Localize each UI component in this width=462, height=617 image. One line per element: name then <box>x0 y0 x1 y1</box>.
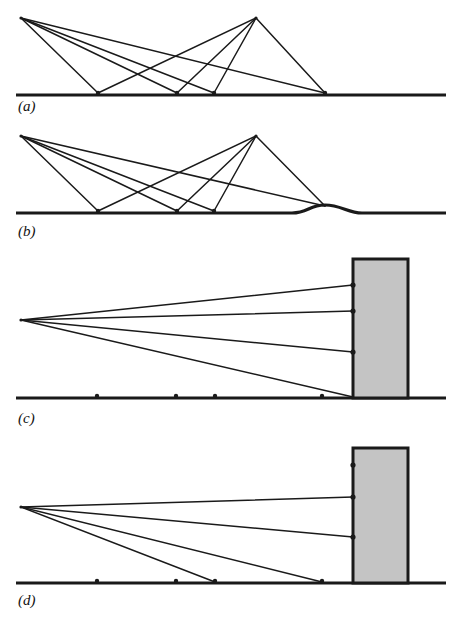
panel-a: (a) <box>16 16 446 115</box>
panel-label-b: (b) <box>18 223 36 240</box>
ground-node-d-3 <box>213 579 217 583</box>
ray-a-5 <box>98 18 256 93</box>
ray-a-8 <box>256 18 325 93</box>
ray-a-7 <box>214 18 256 93</box>
panel-label-c: (c) <box>18 410 35 427</box>
ground-node-b-2 <box>175 209 179 213</box>
ray-b-5 <box>98 136 256 211</box>
left-apex-b <box>19 134 22 137</box>
block-contact-dot-d-3 <box>350 534 355 539</box>
ground-node-c-1 <box>95 394 99 398</box>
panel-b: (b) <box>16 134 446 240</box>
ground-node-d-2 <box>174 579 178 583</box>
ground-node-a-2 <box>175 91 179 95</box>
ray-d-3 <box>21 507 215 582</box>
panel-d: (d) <box>16 448 446 609</box>
source-apex-d <box>19 505 22 508</box>
ground-node-b-1 <box>96 209 100 213</box>
ground-node-c-2 <box>174 394 178 398</box>
ray-d-4 <box>21 507 322 582</box>
block-contact-dot-c-3 <box>350 349 355 354</box>
ground-node-c-4 <box>320 394 324 398</box>
ray-c-3 <box>21 320 353 352</box>
ground-node-c-3 <box>213 394 217 398</box>
ground-node-d-1 <box>95 579 99 583</box>
right-apex-a <box>254 16 257 19</box>
ray-a-1 <box>21 18 98 93</box>
ground-node-a-1 <box>96 91 100 95</box>
panel-label-a: (a) <box>18 98 36 115</box>
block-contact-dot-c-2 <box>350 308 355 313</box>
ray-a-6 <box>177 18 256 93</box>
block-c <box>353 259 408 398</box>
ray-c-4 <box>21 320 353 397</box>
ground-node-d-4 <box>320 579 324 583</box>
ray-d-2 <box>21 507 353 537</box>
source-apex-c <box>19 318 22 321</box>
ground-node-a-3 <box>212 91 216 95</box>
ray-b-2 <box>21 136 177 211</box>
block-contact-dot-d-2 <box>350 494 355 499</box>
ground-node-a-4 <box>323 91 327 95</box>
panel-c: (c) <box>16 259 446 427</box>
ground-node-b-3 <box>212 209 216 213</box>
left-apex-a <box>19 16 22 19</box>
block-contact-dot-c-1 <box>350 282 355 287</box>
ray-a-4 <box>21 18 325 93</box>
ray-d-1 <box>21 497 353 507</box>
ray-a-3 <box>21 18 214 93</box>
panel-label-d: (d) <box>18 592 36 609</box>
ray-b-8 <box>256 136 325 206</box>
ray-b-7 <box>214 136 256 211</box>
ray-b-1 <box>21 136 98 211</box>
ray-a-2 <box>21 18 177 93</box>
block-contact-dot-d-1 <box>350 462 355 467</box>
ray-b-6 <box>177 136 256 211</box>
right-apex-b <box>254 134 257 137</box>
block-d <box>353 448 408 583</box>
ground-profile-b <box>16 205 446 213</box>
ray-diagram-figure: (a)(b)(c)(d) <box>0 0 462 617</box>
figure-canvas: (a)(b)(c)(d) <box>0 0 462 617</box>
